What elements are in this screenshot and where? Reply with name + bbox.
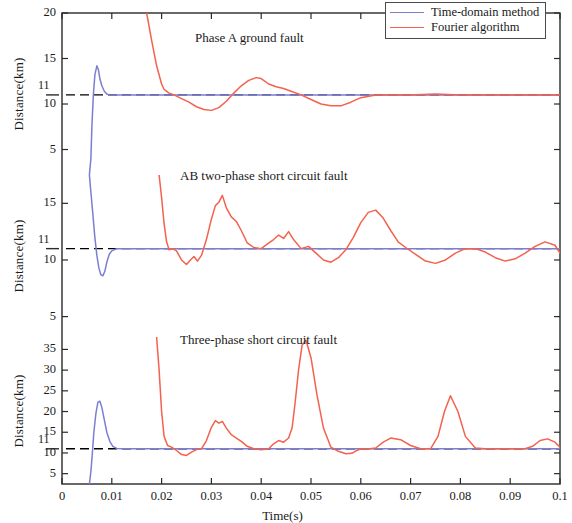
x-tick-label: 0.1 xyxy=(540,489,572,504)
level-label-panel-2: 11 xyxy=(38,232,50,247)
legend-item-time-domain-method: Time-domain method xyxy=(390,5,539,20)
level-label-panel-1: 11 xyxy=(38,78,50,93)
panel-title-phase-a-ground-fault: Phase A ground fault xyxy=(195,30,304,46)
legend: Time-domain method Fourier algorithm xyxy=(385,2,546,39)
x-tick-label: 0.01 xyxy=(92,489,132,504)
y-tick-label: 10 xyxy=(22,252,56,267)
legend-label-time-domain-method: Time-domain method xyxy=(431,5,539,20)
y-tick-label: 25 xyxy=(22,383,56,398)
x-tick-label: 0.05 xyxy=(291,489,331,504)
legend-item-fourier-algorithm: Fourier algorithm xyxy=(390,20,539,35)
y-tick-label: 5 xyxy=(22,466,56,481)
y-tick-label: 10 xyxy=(22,96,56,111)
y-tick-label: 5 xyxy=(22,309,56,324)
x-tick-label: 0.07 xyxy=(391,489,431,504)
y-tick-label: 20 xyxy=(22,5,56,20)
legend-swatch-time-domain-method xyxy=(390,12,424,13)
y-tick-label: 15 xyxy=(22,424,56,439)
y-tick-label: 30 xyxy=(22,362,56,377)
y-tick-label: 5 xyxy=(22,142,56,157)
panel-title-ab-two-phase-short-circuit-fault: AB two-phase short circuit fault xyxy=(180,168,348,184)
x-tick-label: 0.04 xyxy=(241,489,281,504)
y-tick-label: 20 xyxy=(22,404,56,419)
x-tick-label: 0 xyxy=(42,489,82,504)
x-tick-label: 0.06 xyxy=(341,489,381,504)
x-tick-label: 0.09 xyxy=(490,489,530,504)
x-tick-label: 0.03 xyxy=(191,489,231,504)
x-tick-label: 0.02 xyxy=(142,489,182,504)
panel-title-three-phase-short-circuit-fault: Three-phase short circuit fault xyxy=(180,332,337,348)
y-tick-label: 15 xyxy=(22,195,56,210)
y-tick-label: 35 xyxy=(22,341,56,356)
legend-swatch-fourier-algorithm xyxy=(390,27,424,28)
y-tick-label: 15 xyxy=(22,51,56,66)
x-axis-title: Time(s) xyxy=(0,508,565,523)
legend-label-fourier-algorithm: Fourier algorithm xyxy=(431,20,520,35)
y-tick-label: 10 xyxy=(22,445,56,460)
x-tick-label: 0.08 xyxy=(440,489,480,504)
